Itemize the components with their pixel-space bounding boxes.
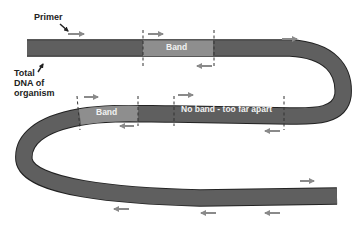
primer-pointer-icon — [60, 24, 68, 31]
total-dna-line-2: DNA of — [14, 78, 55, 88]
total-dna-line-3: organism — [14, 88, 55, 98]
top-band-label: Band — [166, 42, 187, 52]
total-dna-line-1: Total — [14, 68, 55, 78]
no-band-label: No band - too far apart — [181, 104, 272, 114]
total-dna-label: Total DNA of organism — [14, 68, 55, 98]
primer-label: Primer — [34, 12, 63, 22]
middle-band-label: Band — [96, 107, 117, 117]
pcr-diagram — [0, 0, 352, 231]
